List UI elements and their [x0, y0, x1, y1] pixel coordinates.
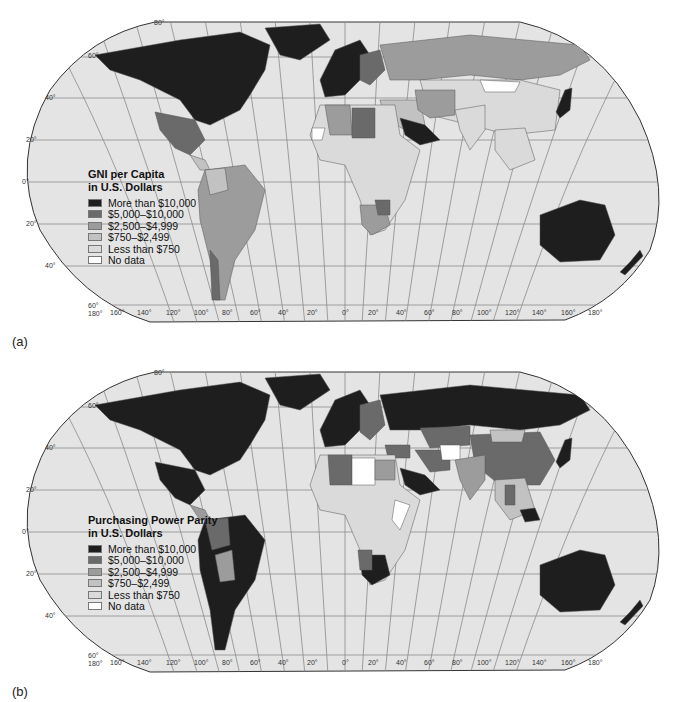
legend-title: GNI per Capita in U.S. Dollars	[88, 168, 196, 194]
svg-text:40°: 40°	[396, 659, 407, 666]
svg-text:180°: 180°	[588, 309, 603, 316]
svg-text:40°: 40°	[396, 309, 407, 316]
legend-item: $2,500–$4,999	[88, 566, 218, 578]
svg-text:120°: 120°	[166, 309, 181, 316]
legend-gni: GNI per Capita in U.S. Dollars More than…	[88, 168, 196, 266]
svg-text:100°: 100°	[477, 659, 492, 666]
svg-text:160°: 160°	[110, 659, 125, 666]
map-panel-ppp: 80° 60° 40° 20° 0° 20° 40° 60° 180°160°1…	[0, 350, 677, 702]
legend-label: Less than $750	[108, 589, 180, 601]
svg-text:80°: 80°	[222, 309, 233, 316]
legend-label: No data	[108, 600, 145, 612]
legend-label: More than $10,000	[108, 197, 196, 209]
legend-label: More than $10,000	[108, 543, 196, 555]
legend-label: $750–$2,499	[108, 231, 169, 243]
svg-text:180°: 180°	[88, 660, 103, 667]
svg-text:120°: 120°	[505, 659, 520, 666]
legend-item: More than $10,000	[88, 197, 196, 209]
svg-text:120°: 120°	[166, 659, 181, 666]
swatch-5000-10000	[88, 556, 102, 564]
lat-label: 40°	[45, 262, 56, 269]
svg-text:180°: 180°	[88, 310, 103, 317]
lat-label: 60°	[88, 652, 99, 659]
svg-text:160°: 160°	[561, 659, 576, 666]
legend-ppp: Purchasing Power Parity in U.S. Dollars …	[88, 514, 218, 612]
legend-label: $2,500–$4,999	[108, 220, 178, 232]
legend-label: $750–$2,499	[108, 577, 169, 589]
swatch-less-than-750	[88, 245, 102, 253]
svg-text:40°: 40°	[278, 309, 289, 316]
swatch-5000-10000	[88, 210, 102, 218]
legend-item: $750–$2,499	[88, 578, 218, 590]
svg-text:100°: 100°	[477, 309, 492, 316]
lat-label: 80°	[154, 369, 165, 376]
swatch-750-2499	[88, 579, 102, 587]
svg-text:20°: 20°	[307, 659, 318, 666]
lat-label: 0°	[22, 178, 29, 185]
svg-text:140°: 140°	[532, 309, 547, 316]
lat-label: 40°	[45, 612, 56, 619]
svg-text:140°: 140°	[137, 659, 152, 666]
legend-item: No data	[88, 255, 196, 267]
svg-text:20°: 20°	[368, 659, 379, 666]
legend-item: More than $10,000	[88, 543, 218, 555]
lat-label: 20°	[26, 486, 37, 493]
swatch-750-2499	[88, 233, 102, 241]
legend-label: Less than $750	[108, 243, 180, 255]
svg-text:20°: 20°	[307, 309, 318, 316]
legend-item: Less than $750	[88, 589, 218, 601]
lat-label: 60°	[88, 302, 99, 309]
legend-label: $5,000–$10,000	[108, 554, 184, 566]
legend-item: $5,000–$10,000	[88, 209, 196, 221]
svg-text:60°: 60°	[250, 659, 261, 666]
svg-text:60°: 60°	[250, 309, 261, 316]
svg-text:20°: 20°	[368, 309, 379, 316]
swatch-more-than-10000	[88, 545, 102, 553]
legend-item: No data	[88, 601, 218, 613]
legend-label: No data	[108, 254, 145, 266]
legend-title-line2: in U.S. Dollars	[88, 181, 196, 194]
svg-text:140°: 140°	[532, 659, 547, 666]
swatch-no-data	[88, 602, 102, 610]
legend-title: Purchasing Power Parity in U.S. Dollars	[88, 514, 218, 540]
legend-item: $5,000–$10,000	[88, 555, 218, 567]
svg-text:60°: 60°	[424, 659, 435, 666]
lat-label: 20°	[26, 136, 37, 143]
swatch-2500-4999	[88, 568, 102, 576]
svg-text:80°: 80°	[222, 659, 233, 666]
svg-text:120°: 120°	[505, 309, 520, 316]
svg-text:140°: 140°	[137, 309, 152, 316]
lat-label: 0°	[22, 528, 29, 535]
lat-label: 80°	[154, 19, 165, 26]
lat-label: 60°	[88, 402, 99, 409]
svg-text:80°: 80°	[452, 309, 463, 316]
swatch-2500-4999	[88, 222, 102, 230]
svg-text:40°: 40°	[278, 659, 289, 666]
legend-label: $5,000–$10,000	[108, 208, 184, 220]
legend-item: $750–$2,499	[88, 232, 196, 244]
legend-label: $2,500–$4,999	[108, 566, 178, 578]
lat-label: 20°	[26, 220, 37, 227]
swatch-no-data	[88, 256, 102, 264]
lat-label: 60°	[88, 52, 99, 59]
lat-label: 40°	[45, 94, 56, 101]
svg-text:0°: 0°	[342, 659, 349, 666]
svg-text:180°: 180°	[588, 659, 603, 666]
svg-text:0°: 0°	[342, 309, 349, 316]
svg-text:100°: 100°	[194, 659, 209, 666]
svg-text:100°: 100°	[194, 309, 209, 316]
svg-text:60°: 60°	[424, 309, 435, 316]
panel-label-b: (b)	[12, 684, 28, 699]
swatch-more-than-10000	[88, 199, 102, 207]
lat-label: 40°	[45, 444, 56, 451]
lat-label: 20°	[26, 570, 37, 577]
legend-title-line1: GNI per Capita	[88, 168, 196, 181]
swatch-less-than-750	[88, 591, 102, 599]
legend-title-line2: in U.S. Dollars	[88, 527, 218, 540]
svg-text:160°: 160°	[561, 309, 576, 316]
svg-text:160°: 160°	[110, 309, 125, 316]
legend-title-line1: Purchasing Power Parity	[88, 514, 218, 527]
map-panel-gni: 80° 60° 40° 20° 0° 20° 40° 60° 180°160°1…	[0, 0, 677, 350]
panel-label-a: (a)	[12, 334, 28, 349]
legend-item: $2,500–$4,999	[88, 220, 196, 232]
